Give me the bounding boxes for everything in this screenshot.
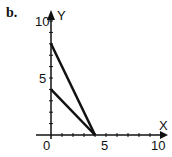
x-axis-label: X bbox=[159, 119, 168, 132]
y-axis-label: Y bbox=[57, 9, 66, 22]
x-tick-label-5: 5 bbox=[101, 139, 108, 152]
y-tick-label-5: 5 bbox=[39, 72, 46, 85]
plot-area bbox=[0, 0, 172, 157]
x-tick-label-10: 10 bbox=[151, 139, 165, 152]
series-line-1 bbox=[51, 44, 95, 135]
series-line-2 bbox=[51, 89, 95, 135]
y-tick-label-10: 10 bbox=[35, 15, 49, 28]
x-tick-label-0: 0 bbox=[43, 139, 50, 152]
